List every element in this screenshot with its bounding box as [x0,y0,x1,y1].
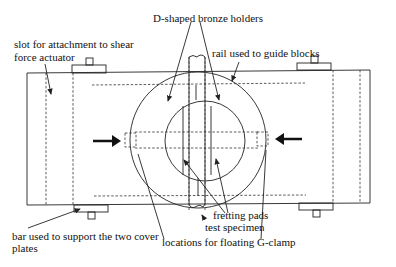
label-test-specimen: test specimen [205,221,265,233]
label-g-clamp: locations for floating G-clamp [162,236,296,248]
label-fretting-pads: fretting pads [213,209,268,221]
arrow-left-icon [275,133,284,145]
load-arrows [93,133,302,147]
label-slot-line2: force actuator [14,51,75,63]
arrow-right-icon [112,135,121,147]
cover-plate-frame [27,70,370,205]
label-slot-line1: slot for attachment to shear [14,38,134,50]
bottom-support-bars [74,203,333,219]
label-bar-line1: bar used to support the two cover [12,230,159,242]
fretting-rig-diagram: D-shaped bronze holders slot for attachm… [0,0,396,267]
label-rail: rail used to guide blocks [212,47,320,59]
label-d-shaped-holders: D-shaped bronze holders [153,12,263,24]
test-specimen [189,55,205,210]
label-bar-line2: plates [12,242,38,254]
g-clamp-band [125,132,268,148]
